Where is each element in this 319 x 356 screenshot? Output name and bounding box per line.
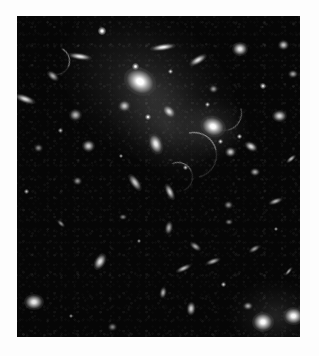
detector-noise-layer-fine bbox=[17, 16, 300, 337]
astronomical-plate bbox=[17, 16, 300, 337]
sky-field bbox=[17, 16, 300, 337]
screenshot-root: Grayscale deep-field image of a rich gal… bbox=[0, 0, 319, 356]
